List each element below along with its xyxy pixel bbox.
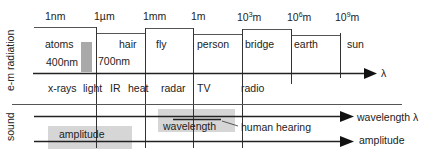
sound-amplitude-arrowhead — [340, 136, 354, 147]
em-radiation-side-label: e-m radiation — [4, 30, 16, 91]
object-earth: earth — [294, 38, 318, 50]
human-hearing-label: human hearing — [241, 121, 311, 133]
object-size-steps — [34, 28, 340, 36]
object-fly: fly — [156, 38, 167, 50]
object-atoms: atoms — [45, 38, 74, 50]
visible-band-start-label: 400nm — [46, 56, 78, 68]
object-hair: hair — [119, 38, 137, 50]
visible-band-end-label: 700nm — [98, 55, 130, 67]
tick-1mm: 1mm — [143, 10, 166, 22]
object-sun: sun — [347, 38, 364, 50]
tick-10e6m: 106m — [287, 9, 311, 23]
sound-wavelength-axis-label: wavelength λ — [357, 111, 418, 123]
tick-1um: 1µm — [94, 10, 115, 22]
wavelength-box-label: wavelength — [163, 120, 216, 132]
object-bridge: bridge — [245, 38, 274, 50]
radiation-radar: radar — [161, 82, 186, 94]
radiation-x-rays: x-rays — [48, 82, 77, 94]
amplitude-box-label: amplitude — [59, 128, 105, 140]
sound-amplitude-axis-label: amplitude — [359, 134, 405, 146]
radiation-light: light — [83, 82, 102, 94]
radiation-radio: radio — [241, 82, 264, 94]
tick-1m: 1m — [191, 10, 206, 22]
radiation-heat: heat — [128, 82, 148, 94]
radiation-ir: IR — [110, 82, 121, 94]
object-person: person — [197, 38, 229, 50]
wavelength-scale-diagram: e-m radiation sound 1nm 1µm 1mm 1m 103m … — [0, 0, 428, 157]
radiation-tv: TV — [197, 82, 210, 94]
sound-wavelength-arrowhead — [340, 111, 354, 122]
tick-10e3m: 103m — [237, 9, 261, 23]
em-axis-lambda-label: λ — [381, 67, 386, 79]
tick-10e9m: 109m — [335, 9, 359, 23]
tick-1nm: 1nm — [45, 10, 65, 22]
sound-side-label: sound — [4, 112, 16, 141]
em-axis-arrowhead — [364, 68, 377, 79]
visible-light-band — [81, 42, 92, 72]
